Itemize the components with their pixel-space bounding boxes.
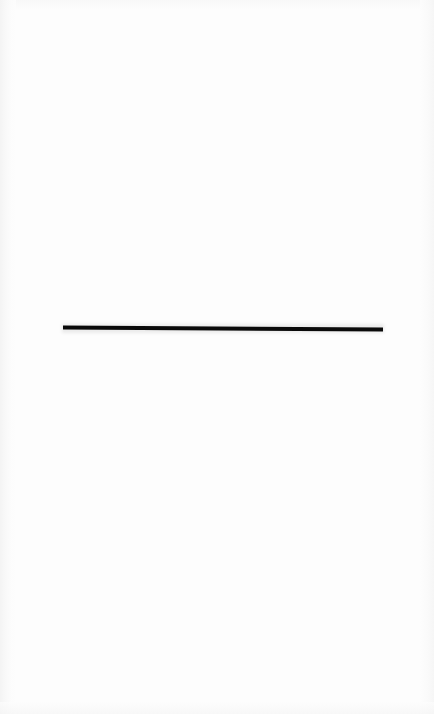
scanned-page <box>0 0 434 714</box>
paper-surface <box>0 0 434 714</box>
